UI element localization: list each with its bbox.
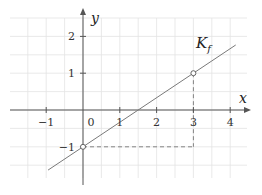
- x-tick-label: 1: [116, 116, 123, 129]
- highlighted-point: [191, 71, 196, 76]
- x-tick-label: 4: [227, 116, 234, 129]
- highlighted-point: [81, 144, 86, 149]
- coordinate-plot: −101234−112 x y Kf: [0, 0, 262, 195]
- series-group: [48, 45, 236, 170]
- x-tick-label: −1: [38, 116, 54, 129]
- x-tick-label: 0: [88, 116, 95, 129]
- x-axis-label: x: [239, 90, 247, 106]
- x-axis-arrow-icon: [244, 107, 251, 113]
- y-tick-label: −1: [59, 141, 75, 154]
- y-tick-label: 2: [68, 30, 75, 43]
- series-line-kf: [48, 45, 236, 170]
- x-tick-label: 3: [190, 116, 197, 129]
- curve-label-kf: Kf: [195, 34, 213, 54]
- y-axis-label: y: [90, 10, 100, 26]
- y-tick-label: 1: [68, 67, 75, 80]
- curve-label-main: K: [195, 34, 208, 52]
- grid: [10, 18, 247, 178]
- y-axis-arrow-icon: [80, 8, 86, 15]
- x-tick-label: 2: [153, 116, 160, 129]
